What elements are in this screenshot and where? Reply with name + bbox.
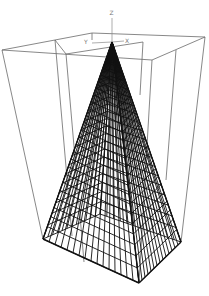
pyramid-mesh: [43, 42, 181, 283]
pyramid-wireframe-plot: Z Y X: [0, 0, 209, 296]
z-axis-label: Z: [110, 9, 114, 16]
x-axis-label: X: [125, 37, 129, 44]
y-axis: Y: [83, 38, 112, 45]
y-axis-label: Y: [83, 38, 88, 45]
x-axis: X: [112, 37, 129, 44]
z-axis: Z: [110, 9, 114, 42]
